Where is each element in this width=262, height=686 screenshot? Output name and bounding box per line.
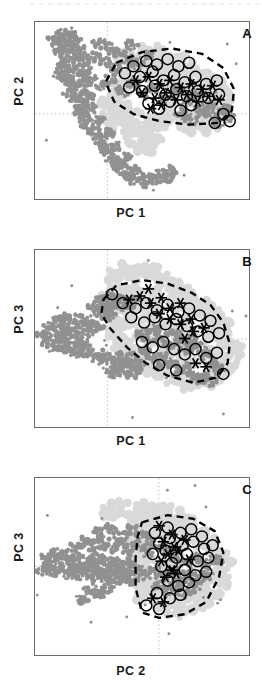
panel-a-y-axis-label: PC 2 [12,71,26,111]
panel-a-scatter-svg [35,22,249,199]
panel-c-scatter-svg [35,478,249,655]
panel-c-y-axis-label: PC 3 [12,527,26,567]
panel-b-y-axis-label: PC 3 [12,299,26,339]
panel-c-plot-area [34,477,250,656]
panel-c-x-axis-label: PC 2 [0,664,262,678]
panel-c-letter: C [242,482,252,497]
panel-a-plot-area [34,21,250,200]
panel-b-plot-area [34,249,250,428]
panel-b-letter: B [242,254,252,269]
panel-a-x-axis-label: PC 1 [0,206,262,220]
pca-figure: PC 2 A PC 1 PC 3 [0,0,262,686]
panel-b: PC 3 B PC 1 [0,228,262,456]
panel-c: PC 3 C PC 2 [0,456,262,684]
panel-a: PC 2 A PC 1 [0,0,262,228]
panel-a-letter: A [242,26,252,41]
panel-b-scatter-svg [35,250,249,427]
panel-b-x-axis-label: PC 1 [0,434,262,448]
